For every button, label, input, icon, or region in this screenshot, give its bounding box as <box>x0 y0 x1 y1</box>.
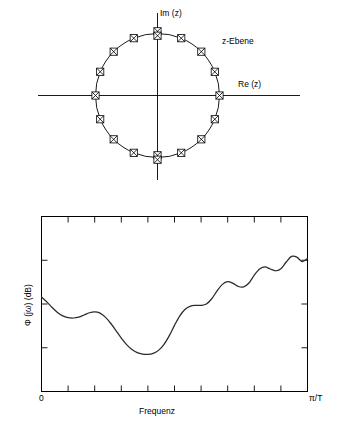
zero-marker <box>110 136 117 143</box>
figure-root: Im (z) Re (z) z-Ebene Φ (jω) (dB) Freque… <box>0 0 348 431</box>
zero-marker <box>110 48 117 55</box>
zero-marker <box>92 92 99 99</box>
zero-marker <box>130 35 137 42</box>
xtick-label-left: 0 <box>39 393 44 403</box>
zero-marker <box>216 92 223 99</box>
zero-marker <box>178 35 185 42</box>
axis-label-imaginary: Im (z) <box>160 8 182 18</box>
zero-marker <box>130 149 137 156</box>
zero-marker <box>154 32 161 39</box>
axis-tick-group <box>42 217 308 392</box>
z-plane-annotation: z-Ebene <box>222 36 254 46</box>
magnitude-panel <box>42 217 308 392</box>
axis-label-real: Re (z) <box>238 79 261 89</box>
zero-marker <box>198 136 205 143</box>
zero-marker <box>154 156 161 163</box>
figure-svg <box>0 0 348 431</box>
xtick-label-right: π/T <box>309 393 322 403</box>
zero-marker <box>211 68 218 75</box>
magnitude-ylabel: Φ (jω) (dB) <box>23 265 33 345</box>
zero-marker <box>211 116 218 123</box>
zero-marker <box>178 149 185 156</box>
z-plane-panel <box>38 13 300 180</box>
zero-marker <box>97 68 104 75</box>
zero-marker <box>198 48 205 55</box>
zero-marker <box>97 116 104 123</box>
magnitude-xlabel: Frequenz <box>139 406 175 416</box>
magnitude-curve <box>42 256 308 354</box>
plot-frame <box>42 217 308 392</box>
